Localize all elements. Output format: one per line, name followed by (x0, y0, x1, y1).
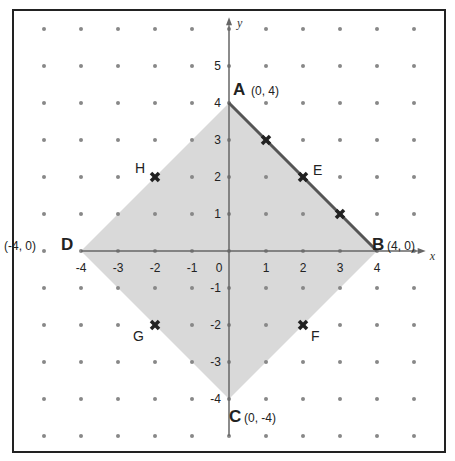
grid-dot (42, 249, 46, 253)
x-tick-label: 2 (300, 261, 307, 275)
grid-dot (375, 27, 379, 31)
vertex-label-d: D (61, 235, 73, 254)
grid-dot (116, 286, 120, 290)
grid-dot (116, 27, 120, 31)
point-label-e: E (313, 162, 322, 178)
y-tick-label: -3 (210, 355, 221, 369)
grid-dot (116, 101, 120, 105)
grid-dot (79, 360, 83, 364)
grid-dot (412, 323, 416, 327)
grid-dot (190, 397, 194, 401)
y-tick-label: -4 (210, 392, 221, 406)
grid-dot (42, 27, 46, 31)
grid-dot (42, 64, 46, 68)
grid-dot (412, 27, 416, 31)
grid-dot (375, 286, 379, 290)
grid-dot (190, 27, 194, 31)
grid-dot (42, 360, 46, 364)
grid-dot (338, 323, 342, 327)
grid-dot (79, 286, 83, 290)
grid-dot (264, 323, 268, 327)
grid-dot (190, 64, 194, 68)
y-tick-label: 2 (214, 170, 221, 184)
grid-dot (190, 175, 194, 179)
grid-dot (190, 286, 194, 290)
grid-dot (412, 212, 416, 216)
grid-dot (190, 138, 194, 142)
grid-dot (338, 397, 342, 401)
grid-dot (116, 175, 120, 179)
grid-dot (264, 101, 268, 105)
grid-dot (153, 434, 157, 438)
grid-dot (301, 27, 305, 31)
y-tick-label: 4 (214, 96, 221, 110)
vertex-coord-a: (0, 4) (251, 84, 279, 98)
grid-dot (116, 212, 120, 216)
grid-dot (79, 138, 83, 142)
grid-dot (301, 101, 305, 105)
grid-dot (338, 360, 342, 364)
grid-dot (412, 175, 416, 179)
x-tick-label: 0 (216, 261, 223, 275)
grid-dot (153, 212, 157, 216)
grid-dot (375, 212, 379, 216)
grid-dot (153, 27, 157, 31)
grid-dot (375, 360, 379, 364)
grid-dot (412, 434, 416, 438)
grid-dot (42, 434, 46, 438)
x-tick-label: -3 (113, 261, 124, 275)
point-label-f: F (311, 328, 320, 344)
x-tick-label: 3 (337, 261, 344, 275)
x-tick-label: -2 (150, 261, 161, 275)
grid-dot (79, 64, 83, 68)
x-tick-label: 1 (263, 261, 270, 275)
grid-dot (42, 212, 46, 216)
grid-dot (153, 360, 157, 364)
grid-dot (301, 138, 305, 142)
grid-dot (412, 286, 416, 290)
grid-dot (79, 323, 83, 327)
x-axis-label: x (429, 249, 436, 263)
vertex-label-a: A (233, 80, 245, 99)
grid-dot (79, 175, 83, 179)
point-label-g: G (133, 328, 144, 344)
grid-dot (116, 360, 120, 364)
grid-dot (264, 397, 268, 401)
x-tick-label: 4 (374, 261, 381, 275)
grid-dot (153, 397, 157, 401)
grid-dot (153, 286, 157, 290)
grid-dot (301, 360, 305, 364)
grid-dot (412, 138, 416, 142)
grid-dot (375, 138, 379, 142)
grid-dot (338, 101, 342, 105)
grid-dot (375, 64, 379, 68)
grid-dot (264, 64, 268, 68)
coordinate-diagram: xy -4-3-2-10123412345-1-2-3-4 EFGHA(0, 4… (0, 0, 455, 461)
vertex-coord-b: (4, 0) (387, 239, 415, 253)
grid-dot (264, 360, 268, 364)
grid-dot (412, 397, 416, 401)
y-axis-label: y (236, 16, 243, 30)
vertex-label-b: B (372, 235, 384, 254)
grid-dot (190, 212, 194, 216)
grid-dot (190, 101, 194, 105)
grid-dot (190, 323, 194, 327)
grid-dot (42, 397, 46, 401)
grid-dot (264, 175, 268, 179)
grid-dot (301, 434, 305, 438)
grid-dot (116, 323, 120, 327)
y-tick-label: -1 (210, 281, 221, 295)
grid-dot (412, 360, 416, 364)
grid-dot (338, 286, 342, 290)
grid-dot (190, 360, 194, 364)
grid-dot (338, 64, 342, 68)
x-tick-label: -1 (187, 261, 198, 275)
grid-dot (338, 27, 342, 31)
x-tick-label: -4 (76, 261, 87, 275)
grid-dot (153, 64, 157, 68)
grid-dot (301, 397, 305, 401)
grid-dot (375, 323, 379, 327)
grid-dot (375, 101, 379, 105)
grid-dot (338, 175, 342, 179)
grid-dot (42, 175, 46, 179)
